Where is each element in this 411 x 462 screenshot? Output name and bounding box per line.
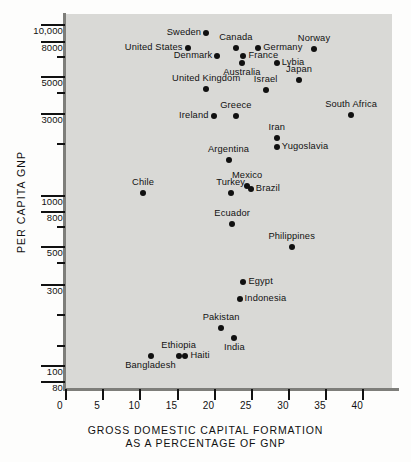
- y-tick-label: 800: [1, 212, 63, 223]
- data-point[interactable]: [203, 86, 209, 92]
- x-tick: [214, 389, 216, 400]
- y-tick-major: [41, 195, 65, 197]
- data-point-label: Norway: [298, 33, 330, 43]
- y-axis-line: [63, 13, 66, 391]
- y-tick-label: 300: [1, 285, 63, 296]
- x-tick-label: 35: [308, 400, 332, 411]
- data-point-label: Philippines: [268, 231, 315, 241]
- y-tick-minor: [57, 143, 65, 145]
- data-point[interactable]: [348, 112, 354, 118]
- x-tick-label: 0: [48, 400, 72, 411]
- y-tick-label: 500: [1, 247, 63, 258]
- data-point[interactable]: [233, 113, 239, 119]
- y-tick-label: 3000: [1, 114, 63, 125]
- y-tick-minor: [57, 92, 65, 94]
- data-point-label: Canada: [219, 32, 252, 42]
- x-tick: [251, 389, 253, 400]
- x-tick: [362, 389, 364, 400]
- x-tick-label: 10: [122, 400, 146, 411]
- data-point-label: Israel: [254, 74, 278, 84]
- y-tick-major: [41, 365, 65, 367]
- data-point[interactable]: [274, 135, 280, 141]
- data-point[interactable]: [218, 325, 224, 331]
- data-point-label: Ecuador: [214, 208, 250, 218]
- y-tick-minor: [57, 262, 65, 264]
- x-tick: [177, 389, 179, 400]
- y-tick-major: [41, 41, 65, 43]
- data-point-label: Pakistan: [203, 312, 240, 322]
- data-point-label: Chile: [132, 177, 154, 187]
- data-point-label: Iran: [268, 122, 285, 132]
- y-tick-label: 10,000: [1, 25, 63, 36]
- data-point-label: Haiti: [190, 350, 209, 360]
- data-point-label: Ethiopia: [161, 340, 196, 350]
- y-tick-major: [41, 24, 65, 26]
- x-tick-label: 20: [197, 400, 221, 411]
- data-point-label: Denmark: [174, 50, 213, 60]
- data-point[interactable]: [274, 144, 280, 150]
- data-point-label: Bangladesh: [125, 360, 176, 370]
- y-tick-major: [41, 76, 65, 78]
- y-tick-major: [41, 284, 65, 286]
- x-tick-label: 25: [234, 400, 258, 411]
- x-tick-label: 5: [85, 400, 109, 411]
- data-point-label: Yugoslavia: [282, 141, 328, 151]
- data-point-label: Argentina: [208, 144, 249, 154]
- data-point-label: United Kingdom: [172, 73, 240, 83]
- y-axis-tick-group: 10,000800050003000100080050030010080: [0, 0, 63, 462]
- data-point[interactable]: [233, 45, 239, 51]
- y-tick-major: [41, 246, 65, 248]
- data-point[interactable]: [248, 186, 254, 192]
- data-point[interactable]: [226, 157, 232, 163]
- y-tick-major: [41, 381, 65, 383]
- x-tick: [102, 389, 104, 400]
- y-tick-minor: [57, 345, 65, 347]
- data-point[interactable]: [289, 244, 295, 250]
- data-point-label: Greece: [220, 100, 251, 110]
- x-axis-title-line1: GROSS DOMESTIC CAPITAL FORMATION: [0, 424, 411, 437]
- data-point-label: Egypt: [248, 276, 273, 286]
- x-tick: [65, 389, 67, 400]
- y-tick-minor: [57, 56, 65, 58]
- x-axis-title-line2: AS A PERCENTAGE OF GNP: [0, 437, 411, 450]
- y-tick-minor: [57, 226, 65, 228]
- data-point[interactable]: [311, 46, 317, 52]
- data-point-label: Japan: [286, 64, 312, 74]
- y-tick-minor: [57, 314, 65, 316]
- y-tick-label: 1000: [1, 196, 63, 207]
- y-tick-label: 100: [1, 366, 63, 377]
- x-tick-label: 40: [345, 400, 369, 411]
- x-tick: [325, 389, 327, 400]
- y-tick-label: 5000: [1, 77, 63, 88]
- data-point[interactable]: [211, 113, 217, 119]
- x-axis-line: [63, 388, 399, 391]
- x-tick-label: 15: [160, 400, 184, 411]
- data-point[interactable]: [237, 296, 243, 302]
- data-point-label: South Africa: [325, 99, 377, 109]
- y-axis-title: PER CAPITA GNP: [15, 137, 27, 267]
- x-tick: [139, 389, 141, 400]
- x-axis-title: GROSS DOMESTIC CAPITAL FORMATION AS A PE…: [0, 424, 411, 449]
- y-tick-major: [41, 211, 65, 213]
- data-point[interactable]: [263, 87, 269, 93]
- data-point-label: Ireland: [179, 110, 208, 120]
- scatter-plot-figure: 10,000800050003000100080050030010080 051…: [0, 0, 411, 462]
- data-point-label: Brazil: [256, 183, 280, 193]
- data-point[interactable]: [176, 353, 182, 359]
- y-tick-label: 8000: [1, 42, 63, 53]
- y-tick-major: [41, 113, 65, 115]
- data-point-label: India: [224, 342, 245, 352]
- data-point-label: France: [248, 50, 278, 60]
- x-tick-label: 30: [271, 400, 295, 411]
- data-point[interactable]: [228, 190, 234, 196]
- x-tick: [288, 389, 290, 400]
- data-point[interactable]: [148, 353, 154, 359]
- data-point-label: Indonesia: [245, 293, 287, 303]
- data-point-label: Sweden: [167, 27, 202, 37]
- y-tick-label: 80: [1, 382, 63, 393]
- data-point-label: Turkey: [216, 177, 245, 187]
